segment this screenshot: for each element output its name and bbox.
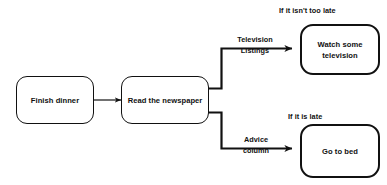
caption-if-it-is-late: If it is late	[288, 112, 322, 121]
edge-label-television-listings: Television Listings	[231, 35, 279, 57]
caption-if-not-too-late: If it isn't too late	[279, 6, 336, 15]
node-finish-dinner[interactable]: Finish dinner	[16, 76, 94, 124]
flowchart-canvas: Finish dinner Read the newspaper Watch s…	[0, 0, 387, 185]
node-watch-television[interactable]: Watch some television	[300, 24, 380, 75]
node-read-newspaper[interactable]: Read the newspaper	[121, 76, 209, 124]
node-read-newspaper-label: Read the newspaper	[128, 95, 203, 106]
node-watch-television-label: Watch some television	[318, 39, 363, 61]
node-go-to-bed[interactable]: Go to bed	[300, 124, 380, 178]
node-finish-dinner-label: Finish dinner	[31, 95, 79, 106]
node-go-to-bed-label: Go to bed	[322, 146, 358, 157]
edge-label-advice-column: Advice column	[234, 135, 278, 157]
